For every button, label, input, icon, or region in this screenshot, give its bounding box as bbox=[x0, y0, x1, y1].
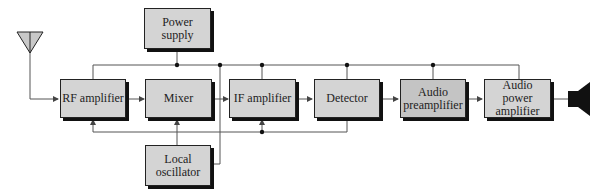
detector-label: Detector bbox=[326, 92, 367, 105]
audio-preamplifier-block: Audio preamplifier bbox=[400, 79, 466, 118]
if-amplifier-label: IF amplifier bbox=[234, 92, 292, 105]
local-oscillator-block: Local oscillator bbox=[145, 145, 211, 186]
rf-amplifier-label: RF amplifier bbox=[62, 92, 124, 105]
local-oscillator-label-1: Local bbox=[164, 153, 191, 166]
audio-power-amplifier-label-3: amplifier bbox=[496, 105, 540, 118]
detector-block: Detector bbox=[314, 79, 380, 118]
mixer-label: Mixer bbox=[164, 92, 193, 105]
mixer-block: Mixer bbox=[145, 79, 212, 118]
local-oscillator-label-2: oscillator bbox=[156, 166, 201, 179]
audio-power-amplifier-block: Audio power amplifier bbox=[484, 79, 551, 118]
power-supply-label: Power supply bbox=[145, 16, 210, 42]
rf-amplifier-block: RF amplifier bbox=[60, 79, 126, 118]
if-amplifier-block: IF amplifier bbox=[229, 79, 296, 118]
speaker-icon bbox=[568, 82, 590, 116]
power-supply-block: Power supply bbox=[144, 8, 211, 49]
audio-preamplifier-label-2: preamplifier bbox=[403, 99, 462, 112]
audio-preamplifier-label-1: Audio bbox=[418, 86, 448, 99]
